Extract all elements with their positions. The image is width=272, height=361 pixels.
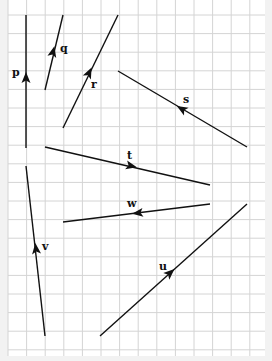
vector-diagram: pqrstwvu xyxy=(0,0,272,361)
vector-label: u xyxy=(159,260,167,273)
vector-label: q xyxy=(60,42,68,55)
vector-label: r xyxy=(91,78,97,91)
vector-label: w xyxy=(126,197,137,210)
vector-label: v xyxy=(41,240,49,253)
vector-label: s xyxy=(183,93,189,106)
vector-label: p xyxy=(12,66,20,79)
